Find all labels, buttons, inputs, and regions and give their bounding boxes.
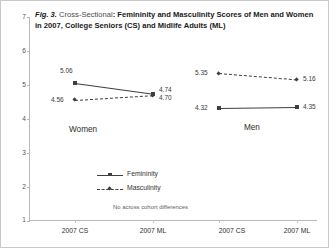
y-tick-label-4: 4 — [13, 116, 26, 123]
men-femininity-line — [219, 107, 297, 109]
y-tick-label-5: 5 — [13, 82, 26, 89]
legend: Femininity Masculinity — [97, 169, 217, 197]
women-femininity-value-cs: 5.06 — [60, 68, 73, 75]
legend-item-masculinity: Masculinity — [97, 183, 217, 197]
y-tick-label-6: 6 — [13, 48, 26, 55]
x-tickmark-1 — [75, 220, 76, 223]
y-tickmark-2 — [27, 187, 30, 188]
y-tickmark-7 — [27, 17, 30, 18]
women-femininity-line — [75, 83, 153, 95]
men-masculinity-point-cs — [217, 71, 222, 76]
legend-label-masculinity: Masculinity — [127, 184, 161, 191]
women-femininity-value-ml: 4.74 — [159, 87, 172, 94]
y-tick-label-3: 3 — [13, 150, 26, 157]
women-femininity-point-cs — [73, 81, 77, 85]
men-masculinity-value-cs: 5.35 — [195, 70, 208, 77]
x-axis-line — [29, 220, 317, 221]
x-tick-label-2: 2007 ML — [140, 227, 166, 234]
legend-marker-square-icon — [108, 173, 112, 177]
women-masculinity-line — [75, 95, 153, 101]
x-tick-label-3: 2007 CS — [219, 227, 245, 234]
group-label-women: Women — [69, 125, 97, 134]
legend-label-femininity: Femininity — [127, 170, 158, 177]
y-tick-label-7: 7 — [13, 14, 26, 21]
group-label-men: Men — [244, 123, 260, 132]
y-tick-label-1: 1 — [13, 217, 26, 224]
legend-item-femininity: Femininity — [97, 169, 217, 183]
men-masculinity-point-ml — [295, 77, 300, 82]
women-masculinity-value-ml: 4.70 — [159, 95, 172, 102]
men-femininity-value-ml: 4.35 — [303, 104, 316, 111]
figure-panel: Fig. 3. Cross-Sectional: Femininity and … — [0, 0, 329, 248]
men-femininity-value-cs: 4.32 — [195, 105, 208, 112]
men-femininity-point-cs — [217, 106, 221, 110]
x-tickmark-3 — [219, 220, 220, 223]
men-femininity-point-ml — [295, 105, 299, 109]
women-masculinity-value-cs: 4.56 — [51, 97, 64, 104]
x-tickmark-2 — [153, 220, 154, 223]
chart-annotation-note: No across cohort differences — [113, 204, 188, 210]
x-tick-label-1: 2007 CS — [62, 227, 88, 234]
men-masculinity-value-ml: 5.16 — [303, 76, 316, 83]
y-tickmark-5 — [27, 85, 30, 86]
y-tickmark-4 — [27, 119, 30, 120]
y-tickmark-3 — [27, 153, 30, 154]
y-tickmark-6 — [27, 51, 30, 52]
x-tick-label-4: 2007 ML — [284, 227, 310, 234]
y-tick-label-2: 2 — [13, 184, 26, 191]
x-tickmark-4 — [297, 220, 298, 223]
men-masculinity-line — [219, 73, 297, 80]
y-tickmark-1 — [27, 221, 30, 222]
legend-marker-diamond-icon — [107, 186, 112, 191]
